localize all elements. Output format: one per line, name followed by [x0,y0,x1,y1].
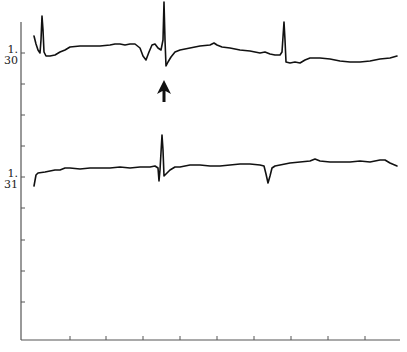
arrow-up-icon [157,80,171,102]
arrow-annotation [157,80,171,102]
y-tick-label: 1.30 [0,44,18,66]
axes [21,22,400,340]
trace-1-30 [34,2,397,66]
y-tick-label: 1.31 [0,168,18,190]
ecg-chart [0,0,407,352]
trace-1-31 [34,135,397,186]
traces [34,2,397,186]
